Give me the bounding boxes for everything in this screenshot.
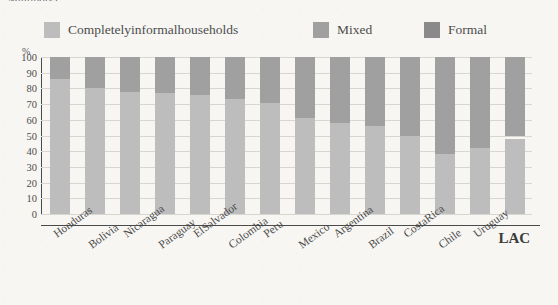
- gridline: [41, 167, 532, 168]
- segment-mixed: [400, 57, 420, 136]
- segment-informal: [225, 99, 245, 214]
- y-axis-tick-label: 20: [27, 177, 38, 188]
- legend-label-mixed: Mixed: [337, 22, 372, 38]
- bar-peru[interactable]: [260, 57, 280, 214]
- legend-swatch-informal: [44, 22, 60, 38]
- bar-bolivia[interactable]: [85, 57, 105, 214]
- gridline: [41, 214, 532, 215]
- legend-swatch-formal: [424, 22, 440, 38]
- x-axis-label-chile: Chile: [436, 226, 463, 250]
- gridline: [41, 88, 532, 89]
- bar-brazil[interactable]: [365, 57, 385, 214]
- legend-item-informal: Completelyinformalhouseholds: [44, 22, 238, 38]
- segment-mixed: [85, 57, 105, 88]
- segment-informal: [260, 103, 280, 214]
- y-axis-tick-label: 80: [27, 83, 38, 94]
- x-axis-label-paraguay: Paraguay: [156, 216, 198, 251]
- segment-informal: [85, 88, 105, 214]
- segment-mixed: [470, 57, 490, 148]
- x-axis-label-brazil: Brazil: [366, 224, 396, 250]
- segment-informal: [400, 136, 420, 215]
- segment-mixed: [330, 57, 350, 123]
- gridline: [41, 57, 532, 58]
- bar-nicaragua[interactable]: [120, 57, 140, 214]
- gridline: [41, 73, 532, 74]
- segment-informal: [155, 93, 175, 214]
- bar-costarica[interactable]: [400, 57, 420, 214]
- gridline: [41, 198, 532, 199]
- gridline: [41, 120, 532, 121]
- y-axis-tick-label: 90: [27, 67, 38, 78]
- segment-informal: [470, 148, 490, 214]
- bar-mexico[interactable]: [295, 57, 315, 214]
- segment-informal: [50, 79, 70, 214]
- bar-uruguay[interactable]: [470, 57, 490, 214]
- y-axis-tick-label: 30: [27, 161, 38, 172]
- segment-mixed: [435, 57, 455, 154]
- segment-informal: [330, 123, 350, 214]
- segment-mixed: [260, 57, 280, 103]
- y-axis-tick-label: 70: [27, 99, 38, 110]
- segment-mixed: [225, 57, 245, 99]
- legend-label-informal: Completelyinformalhouseholds: [68, 22, 238, 38]
- bar-chile[interactable]: [435, 57, 455, 214]
- y-axis-tick-label: 40: [27, 146, 38, 157]
- legend-item-mixed: Mixed: [313, 22, 372, 38]
- legend-label-formal: Formal: [448, 22, 487, 38]
- segment-informal: [120, 92, 140, 214]
- segment-mixed: [155, 57, 175, 93]
- segment-mixed: [505, 57, 525, 136]
- chart-legend: Completelyinformalhouseholds Mixed Forma…: [0, 22, 558, 44]
- segment-mixed: [295, 57, 315, 118]
- segment-informal: [190, 95, 210, 214]
- legend-item-formal: Formal: [424, 22, 487, 38]
- segment-informal: [295, 118, 315, 214]
- chart-plot-area: % 0102030405060708090100 HondurasBolivia…: [0, 46, 558, 305]
- x-axis-label-lac: LAC: [498, 230, 530, 247]
- y-axis-tick-label: 0: [32, 209, 37, 220]
- clipped-page-title: Multipoly): [8, 0, 58, 1]
- segment-mixed: [120, 57, 140, 92]
- gridline: [41, 151, 532, 152]
- bar-colombia[interactable]: [225, 57, 245, 214]
- gridline: [41, 104, 532, 105]
- gridline: [41, 183, 532, 184]
- bar-elsalvador[interactable]: [190, 57, 210, 214]
- legend-swatch-mixed: [313, 22, 329, 38]
- bar-lac[interactable]: [505, 57, 525, 214]
- segment-informal: [505, 139, 525, 214]
- y-axis-tick-label: 100: [21, 52, 37, 63]
- bar-argentina[interactable]: [330, 57, 350, 214]
- segment-informal: [365, 126, 385, 214]
- bar-paraguay[interactable]: [155, 57, 175, 214]
- bar-honduras[interactable]: [50, 57, 70, 214]
- segment-mixed: [365, 57, 385, 126]
- segment-mixed: [190, 57, 210, 95]
- y-axis-tick-label: 10: [27, 193, 38, 204]
- chart-axes: 0102030405060708090100: [41, 57, 532, 214]
- y-axis-tick-label: 60: [27, 114, 38, 125]
- segment-mixed: [50, 57, 70, 79]
- y-axis-tick-label: 50: [27, 130, 38, 141]
- gridline: [41, 136, 532, 137]
- x-axis-labels: HondurasBoliviaNicaraguaParaguayElSalvad…: [41, 228, 546, 302]
